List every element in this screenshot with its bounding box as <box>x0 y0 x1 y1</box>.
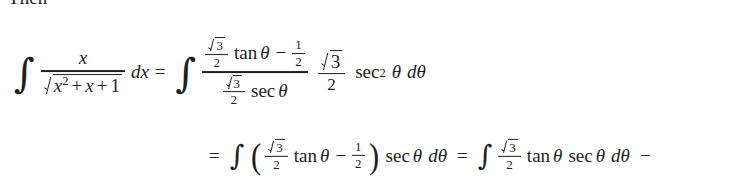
fraction-numerator: 3 2 tan θ − 1 2 <box>202 37 307 71</box>
sec-operator: sec <box>386 146 410 165</box>
equals-sign: = <box>155 62 166 81</box>
fraction-sqrt3-over-2: 3 2 <box>498 139 521 171</box>
differential-dx: dx <box>131 62 149 81</box>
fraction-numerator: 1 <box>352 140 365 155</box>
plus-operator: + <box>72 75 83 96</box>
tan-operator: tan <box>527 146 550 165</box>
minus-operator: − <box>275 43 286 63</box>
plus-operator: + <box>97 75 108 96</box>
square-root: 3 <box>226 75 243 91</box>
differential-dtheta: dθ <box>428 146 447 165</box>
fraction-numerator: 3 <box>205 37 228 54</box>
fraction-numerator: 3 <box>498 139 521 156</box>
radicand: 3 <box>330 50 343 72</box>
trailing-minus-operator: − <box>640 146 651 165</box>
minus-operator: − <box>335 146 346 165</box>
x-symbol: x <box>140 61 148 82</box>
document-page: Then ∫ x x2+x+1 dx = <box>0 0 736 190</box>
fraction-one-half: 1 2 <box>352 140 365 170</box>
fraction-numerator: 3 <box>318 50 346 74</box>
differential-dtheta: dθ <box>407 62 426 81</box>
sec-operator: sec <box>355 62 379 81</box>
fraction-substituted-expression: 3 2 tan θ − 1 2 <box>202 37 307 107</box>
fraction-denominator: 2 <box>324 75 339 95</box>
exponent: 2 <box>62 74 68 88</box>
fraction-one-half: 1 2 <box>292 38 305 68</box>
radicand: 3 <box>233 75 243 91</box>
theta-symbol: θ <box>413 146 422 165</box>
theta-symbol: θ <box>553 146 562 165</box>
fraction-sqrt3-over-2-coefficient: 3 2 <box>318 50 346 95</box>
theta-symbol: θ <box>278 81 287 101</box>
fraction-denominator: x2+x+1 <box>41 72 125 96</box>
square-root: 3 <box>208 37 225 53</box>
fraction-denominator: 2 <box>270 157 283 172</box>
fraction-denominator: 3 2 sec θ <box>220 73 291 107</box>
radical-icon <box>44 74 53 96</box>
square-root: 3 <box>321 50 343 72</box>
square-root: 3 <box>268 139 285 155</box>
radicand: 3 <box>508 139 518 155</box>
radicand: 3 <box>275 139 285 155</box>
fraction-numerator: x <box>76 48 90 70</box>
fraction-denominator: 2 <box>503 157 516 172</box>
d-symbol: d <box>611 145 621 166</box>
radical-icon <box>208 37 215 53</box>
equation-line-2: = ∫ ( 3 2 tan θ − 1 2 <box>209 139 651 171</box>
equals-sign: = <box>209 146 220 165</box>
constant-one: 1 <box>110 75 120 96</box>
theta-symbol: θ <box>596 146 605 165</box>
differential-dtheta: dθ <box>611 146 630 165</box>
variable-x: x <box>85 75 93 96</box>
d-symbol: d <box>407 61 417 82</box>
d-symbol: d <box>428 145 438 166</box>
theta-symbol: θ <box>392 62 401 81</box>
radical-icon <box>226 75 233 91</box>
radical-icon <box>501 139 508 155</box>
theta-symbol: θ <box>417 61 426 82</box>
theta-symbol: θ <box>320 146 329 165</box>
tan-operator: tan <box>294 146 317 165</box>
fraction-denominator: 2 <box>228 92 241 107</box>
theta-symbol: θ <box>438 145 447 166</box>
fraction-sqrt3-over-2: 3 2 <box>265 139 288 171</box>
fraction-sqrt3-over-2: 3 2 <box>223 75 246 107</box>
tan-operator: tan <box>234 43 257 63</box>
variable-x: x <box>79 48 87 68</box>
equation-line-1: ∫ x x2+x+1 dx = ∫ <box>14 37 426 107</box>
radical-icon <box>321 50 330 72</box>
radicand: 3 <box>215 37 225 53</box>
sec-operator: sec <box>251 81 275 101</box>
fraction-numerator: 3 <box>223 75 246 92</box>
fraction-numerator: 3 <box>265 139 288 156</box>
intro-text: Then <box>8 0 47 7</box>
fraction-denominator: 2 <box>292 54 305 69</box>
square-root: x2+x+1 <box>44 74 122 96</box>
fraction-denominator: 2 <box>210 55 223 70</box>
fraction-x-over-sqrt: x x2+x+1 <box>41 48 125 95</box>
radicand: x2+x+1 <box>53 74 122 96</box>
fraction-sqrt3-over-2: 3 2 <box>205 37 228 69</box>
square-root: 3 <box>501 139 518 155</box>
sec-operator: sec <box>568 146 592 165</box>
theta-symbol: θ <box>260 43 269 63</box>
fraction-numerator: 1 <box>292 38 305 53</box>
fraction-denominator: 2 <box>352 156 365 171</box>
d-symbol: d <box>131 61 141 82</box>
radical-icon <box>268 139 275 155</box>
theta-symbol: θ <box>621 145 630 166</box>
equals-sign: = <box>457 146 468 165</box>
